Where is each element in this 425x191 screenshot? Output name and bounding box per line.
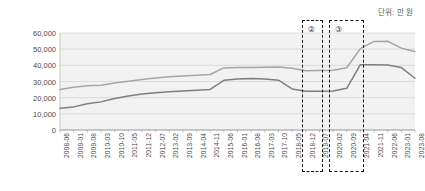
x-tick-label: 2017-10: [281, 133, 288, 158]
x-tick-label: 2011-12: [145, 133, 152, 157]
annotation-number: ②: [308, 26, 315, 34]
x-tick-label: 2010-10: [118, 133, 125, 158]
x-tick-label: 2009-01: [77, 133, 84, 158]
x-tick-label: 2023-01: [404, 133, 411, 158]
x-tick-label: 2016-08: [254, 133, 261, 158]
x-tick-label: 2022-06: [391, 133, 398, 158]
x-tick-label: 2011-05: [131, 133, 138, 157]
annotation-number: ③: [335, 26, 342, 34]
x-tick-label: 2014-11: [213, 133, 220, 157]
x-tick-label: 2009-08: [90, 133, 97, 158]
x-tick-label: 2021-04: [363, 133, 370, 158]
x-tick-label: 2012-07: [159, 133, 166, 158]
x-tick-label: 2017-03: [268, 133, 275, 158]
x-tick-label: 2015-06: [227, 133, 234, 158]
x-tick-label: 2014-04: [200, 133, 207, 158]
annotation-box: [302, 20, 324, 172]
annotation-box: [329, 20, 364, 172]
x-tick-label: 2013-09: [186, 133, 193, 158]
x-tick-label: 2023-08: [418, 133, 425, 158]
x-tick-label: 2008-06: [63, 133, 70, 158]
x-tick-label: 2013-02: [172, 133, 179, 158]
x-tick-label: 2016-01: [241, 133, 248, 158]
x-tick-label: 2021-11: [377, 133, 384, 157]
x-tick-label: 2010-03: [104, 133, 111, 158]
